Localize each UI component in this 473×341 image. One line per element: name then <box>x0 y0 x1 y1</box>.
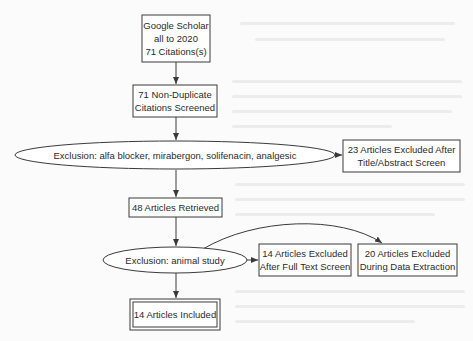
node-screened: 71 Non-Duplicate Citations Screened <box>133 85 217 117</box>
node-excluded-extraction-line: During Data Extraction <box>360 261 456 272</box>
node-exclusion1-label: Exclusion: alfa blocker, mirabergon, sol… <box>54 150 297 161</box>
node-included-label: 14 Articles Included <box>134 309 216 320</box>
node-excluded-title-line: 23 Articles Excluded After <box>348 144 456 155</box>
flowchart: Google Scholar all to 2020 71 Citations(… <box>0 0 473 341</box>
node-excluded-extraction: 20 Articles Excluded During Data Extract… <box>358 244 457 276</box>
node-retrieved: 48 Articles Retrieved <box>129 198 222 217</box>
node-retrieved-label: 48 Articles Retrieved <box>132 202 219 213</box>
node-excluded-title-line: Title/Abstract Screen <box>358 157 446 168</box>
node-excluded-fulltext: 14 Articles Excluded After Full Text Scr… <box>259 244 351 276</box>
node-included: 14 Articles Included <box>130 299 220 330</box>
node-source-line: all to 2020 <box>154 33 198 44</box>
node-excluded-extraction-line: 20 Articles Excluded <box>365 248 451 259</box>
node-screened-line: 71 Non-Duplicate <box>138 89 211 100</box>
node-source: Google Scholar all to 2020 71 Citations(… <box>142 15 210 62</box>
node-excluded-fulltext-line: 14 Articles Excluded <box>262 248 348 259</box>
node-source-line: 71 Citations(s) <box>145 46 206 57</box>
node-excluded-title: 23 Articles Excluded After Title/Abstrac… <box>343 140 460 172</box>
node-exclusion1: Exclusion: alfa blocker, mirabergon, sol… <box>15 141 335 169</box>
node-screened-line: Citations Screened <box>135 102 215 113</box>
node-source-line: Google Scholar <box>143 20 208 31</box>
node-exclusion2-label: Exclusion: animal study <box>125 255 225 266</box>
node-exclusion2: Exclusion: animal study <box>103 247 247 273</box>
node-excluded-fulltext-line: After Full Text Screen <box>260 261 351 272</box>
